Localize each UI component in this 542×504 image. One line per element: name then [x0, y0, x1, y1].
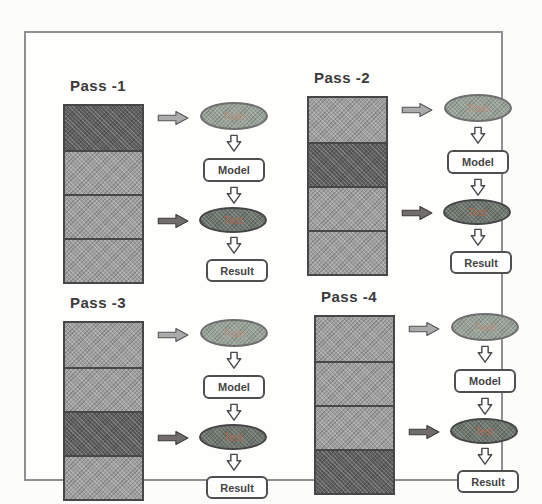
figure-frame: Pass -1 Train Model Test Result Pass -2 — [24, 31, 503, 481]
result-node: Result — [450, 251, 512, 274]
fold-2 — [65, 150, 142, 194]
fold-1 — [316, 317, 393, 361]
pass-title: Pass -1 — [70, 77, 126, 94]
data-folds-stack — [314, 315, 395, 495]
fold-4 — [309, 230, 386, 274]
down-arrow-icon — [225, 403, 243, 422]
fold-2 — [309, 142, 386, 186]
pass-title: Pass -3 — [70, 294, 126, 311]
model-label: Model — [462, 156, 494, 168]
test-node: Test — [199, 207, 267, 233]
right-arrow-icon — [155, 327, 192, 343]
result-node: Result — [206, 259, 268, 282]
data-folds-stack — [63, 104, 144, 284]
fold-4 — [316, 449, 393, 493]
right-arrow-icon — [406, 424, 443, 440]
pass-panel-1: Pass -1 Train Model Test Result — [63, 77, 315, 287]
fold-2 — [65, 367, 142, 411]
fold-1 — [309, 98, 386, 142]
down-arrow-icon — [225, 186, 243, 205]
result-label: Result — [464, 257, 498, 269]
train-node: Train — [200, 102, 268, 130]
pass-panel-3: Pass -3 Train Model Test Result — [63, 294, 315, 504]
right-arrow-icon — [406, 321, 443, 337]
test-label: Test — [475, 426, 493, 437]
fold-3 — [65, 411, 142, 455]
fold-1 — [65, 106, 142, 150]
model-node: Model — [203, 375, 265, 399]
down-arrow-icon — [476, 345, 494, 364]
pass-title: Pass -4 — [321, 288, 377, 305]
down-arrow-icon — [225, 453, 243, 472]
fold-4 — [65, 455, 142, 499]
train-node: Train — [444, 94, 512, 122]
train-node: Train — [451, 313, 519, 341]
fold-3 — [316, 405, 393, 449]
result-label: Result — [471, 476, 505, 488]
pass-panel-4: Pass -4 Train Model Test Result — [314, 288, 542, 498]
data-folds-stack — [63, 321, 144, 501]
fold-4 — [65, 238, 142, 282]
pass-title: Pass -2 — [314, 69, 370, 86]
down-arrow-icon — [225, 236, 243, 255]
model-label: Model — [218, 381, 250, 393]
fold-2 — [316, 361, 393, 405]
test-node: Test — [450, 418, 518, 444]
down-arrow-icon — [469, 126, 487, 145]
model-label: Model — [218, 164, 250, 176]
down-arrow-icon — [469, 228, 487, 247]
result-label: Result — [220, 265, 254, 277]
test-label: Test — [224, 215, 242, 226]
model-node: Model — [203, 158, 265, 182]
right-arrow-icon — [155, 430, 192, 446]
right-arrow-icon — [155, 213, 192, 229]
train-label: Train — [223, 111, 245, 122]
model-node: Model — [454, 369, 516, 393]
data-folds-stack — [307, 96, 388, 276]
right-arrow-icon — [155, 110, 192, 126]
test-node: Test — [199, 424, 267, 450]
result-label: Result — [220, 482, 254, 494]
down-arrow-icon — [225, 351, 243, 370]
train-node: Train — [200, 319, 268, 347]
train-label: Train — [474, 322, 496, 333]
down-arrow-icon — [476, 447, 494, 466]
model-node: Model — [447, 150, 509, 174]
result-node: Result — [206, 476, 268, 499]
test-label: Test — [468, 207, 486, 218]
model-label: Model — [469, 375, 501, 387]
fold-1 — [65, 323, 142, 367]
right-arrow-icon — [399, 102, 436, 118]
test-node: Test — [443, 199, 511, 225]
train-label: Train — [223, 328, 245, 339]
down-arrow-icon — [476, 397, 494, 416]
result-node: Result — [457, 470, 519, 493]
right-arrow-icon — [399, 205, 436, 221]
pass-panel-2: Pass -2 Train Model Test Result — [307, 69, 542, 279]
down-arrow-icon — [469, 178, 487, 197]
fold-3 — [309, 186, 386, 230]
down-arrow-icon — [225, 134, 243, 153]
train-label: Train — [467, 103, 489, 114]
fold-3 — [65, 194, 142, 238]
test-label: Test — [224, 432, 242, 443]
